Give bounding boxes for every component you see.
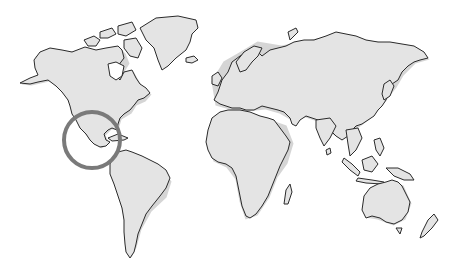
madagascar	[284, 184, 292, 204]
africa	[206, 110, 292, 218]
sri-lanka	[326, 148, 331, 155]
sumatra	[342, 158, 360, 176]
new-zealand	[420, 214, 438, 238]
indian-peninsula	[316, 118, 336, 146]
iceland	[186, 56, 198, 63]
indochina	[346, 128, 362, 156]
world-map	[0, 0, 455, 272]
philippines	[374, 138, 384, 156]
oceania	[362, 180, 438, 238]
borneo	[362, 156, 378, 172]
south-america	[110, 150, 170, 258]
arctic-island-2	[100, 28, 116, 38]
africa-mainland	[206, 110, 290, 218]
baffin-island	[124, 38, 142, 58]
australia	[362, 180, 410, 224]
arctic-island-1	[84, 36, 100, 46]
novaya-zemlya	[288, 28, 298, 40]
north-america-mainland	[20, 46, 150, 147]
new-guinea	[386, 168, 414, 180]
tasmania	[396, 228, 402, 234]
arctic-island-3	[118, 22, 136, 36]
